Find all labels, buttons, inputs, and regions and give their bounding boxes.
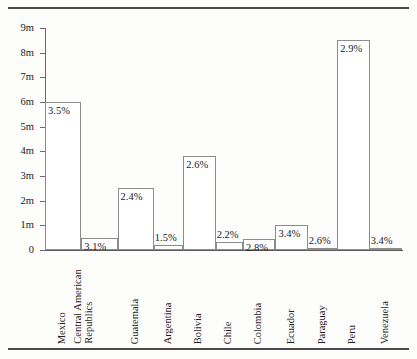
x-label-peru: Peru (346, 325, 357, 344)
y-axis-tick-label: 9m (0, 23, 34, 34)
bar-value-label: 2.2% (217, 230, 239, 241)
bar-argentina[interactable] (154, 245, 183, 250)
bar-mexico[interactable] (45, 102, 81, 250)
bar-value-label: 2.6% (186, 160, 208, 171)
y-axis-tick-label: 2m (0, 195, 34, 206)
bar-value-label: 3.4% (371, 236, 393, 247)
bar-value-label: 1.5% (155, 233, 177, 244)
bar-peru[interactable] (337, 40, 369, 250)
x-label-venezuela: Venezuela (378, 301, 389, 344)
x-label-chile: Chile (222, 321, 233, 344)
y-axis-tick (40, 250, 46, 251)
bar-value-label: 2.9% (340, 44, 362, 55)
plot-area: 3.5%3.1%2.4%1.5%2.6%2.2%2.8%3.4%2.6%2.9%… (45, 28, 402, 250)
bar-value-label: 3.4% (278, 229, 300, 240)
x-label-argentina: Argentina (161, 302, 172, 344)
y-axis-tick-label: 8m (0, 47, 34, 58)
chart-figure: 9m8m7m6m5m4m3m2m1m0 3.5%3.1%2.4%1.5%2.6%… (0, 0, 417, 359)
y-axis-tick-label: 4m (0, 146, 34, 157)
x-label-central-american-republics: Central AmericanRepublics (73, 258, 96, 344)
x-axis-category-labels: MexicoCentral AmericanRepublicsGuatemala… (45, 252, 402, 344)
x-label-paraguay: Paraguay (315, 305, 326, 344)
x-label-mexico: Mexico (56, 312, 67, 344)
y-axis-tick-label: 1m (0, 220, 34, 231)
x-label-colombia: Colombia (252, 303, 263, 344)
y-axis-tick-label: 7m (0, 72, 34, 83)
y-axis-tick-label: 5m (0, 121, 34, 132)
x-label-guatemala: Guatemala (128, 299, 139, 344)
bar-value-label: 2.4% (121, 192, 143, 203)
bar-value-label: 3.1% (84, 242, 106, 253)
bar-value-label: 3.5% (48, 106, 70, 117)
x-label-bolivia: Bolivia (192, 313, 203, 344)
y-axis-tick-label: 0 (0, 245, 34, 256)
bar-chile[interactable] (216, 242, 243, 250)
y-axis-tick-label: 6m (0, 97, 34, 108)
bar-value-label: 2.6% (309, 236, 331, 247)
bar-venezuela[interactable] (370, 248, 402, 250)
bottom-rule (8, 348, 409, 350)
top-rule (8, 7, 409, 9)
x-label-ecuador: Ecuador (284, 309, 295, 344)
y-axis-tick-label: 3m (0, 171, 34, 182)
bar-paraguay[interactable] (308, 248, 337, 250)
